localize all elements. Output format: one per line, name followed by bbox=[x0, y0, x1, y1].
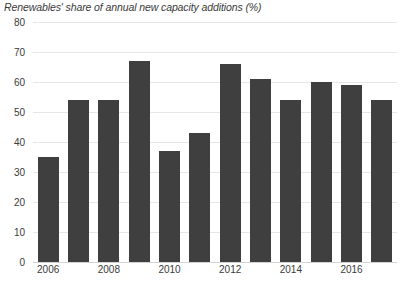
bar bbox=[220, 64, 241, 262]
bar bbox=[68, 100, 89, 262]
bar bbox=[280, 100, 301, 262]
y-tick-label-50: 50 bbox=[14, 107, 25, 118]
chart-title: Renewables' share of annual new capacity… bbox=[4, 1, 262, 13]
y-tick-label-10: 10 bbox=[14, 227, 25, 238]
x-tick-label-2016: 2016 bbox=[340, 264, 362, 275]
bar bbox=[159, 151, 180, 262]
bar bbox=[371, 100, 392, 262]
x-tick-label-2008: 2008 bbox=[98, 264, 120, 275]
bar bbox=[341, 85, 362, 262]
y-tick-label-80: 80 bbox=[14, 17, 25, 28]
y-tick-label-70: 70 bbox=[14, 47, 25, 58]
gridline-0 bbox=[33, 262, 397, 263]
plot-area bbox=[33, 22, 397, 262]
x-tick-label-2014: 2014 bbox=[280, 264, 302, 275]
x-tick-label-2012: 2012 bbox=[219, 264, 241, 275]
bar bbox=[129, 61, 150, 262]
bar bbox=[38, 157, 59, 262]
bar-chart-figure: Renewables' share of annual new capacity… bbox=[0, 0, 403, 290]
y-tick-label-30: 30 bbox=[14, 167, 25, 178]
bar bbox=[98, 100, 119, 262]
bars-group bbox=[33, 22, 397, 262]
bar bbox=[311, 82, 332, 262]
y-tick-label-20: 20 bbox=[14, 197, 25, 208]
y-tick-label-40: 40 bbox=[14, 137, 25, 148]
bar bbox=[189, 133, 210, 262]
x-axis: 200620082010201220142016 bbox=[33, 264, 397, 284]
x-tick-label-2010: 2010 bbox=[158, 264, 180, 275]
y-tick-label-60: 60 bbox=[14, 77, 25, 88]
x-tick-label-2006: 2006 bbox=[37, 264, 59, 275]
bar bbox=[250, 79, 271, 262]
y-tick-label-0: 0 bbox=[19, 257, 25, 268]
y-axis: 01020304050607080 bbox=[0, 22, 30, 262]
